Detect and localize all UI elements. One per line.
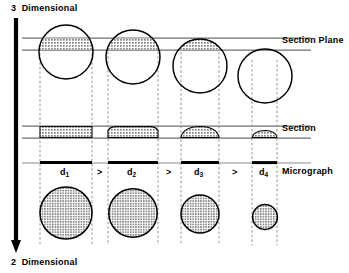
- row-label-section-plane: Section Plane: [282, 36, 344, 45]
- dimensional-axis-arrow: [11, 18, 21, 253]
- axis-top-number: 3: [11, 3, 16, 13]
- section-shape-4: [252, 131, 277, 138]
- diameter-label-3-sub: 3: [200, 171, 204, 178]
- diameter-label-1-sub: 1: [66, 171, 70, 178]
- section-shape-2: [108, 127, 158, 138]
- diameter-label-2-base: d: [127, 167, 133, 177]
- section-shape-1: [40, 127, 92, 138]
- diameter-label-2: d2: [127, 168, 136, 177]
- row-label-micrograph: Micrograph: [282, 167, 333, 176]
- micrograph-disc-1: [40, 187, 92, 239]
- axis-bottom-number: 2: [11, 257, 16, 267]
- diameter-label-1: d1: [60, 168, 69, 177]
- sphere-3: [172, 39, 228, 93]
- axis-label-2-dimensional: 2 Dimensional: [11, 258, 77, 267]
- axis-top-word: Dimensional: [22, 3, 78, 13]
- micrograph-disc-3: [181, 195, 219, 233]
- sphere-group: [38, 25, 293, 103]
- micrograph-disc-2: [109, 189, 157, 237]
- diameter-label-4-base: d: [259, 167, 265, 177]
- diameter-label-3: d3: [194, 168, 203, 177]
- micrograph-discs: [40, 187, 277, 239]
- diameter-label-4: d4: [259, 168, 268, 177]
- micrograph-disc-4: [253, 205, 278, 230]
- section-shapes: [40, 127, 277, 138]
- comparison-operator-1: >: [97, 168, 102, 177]
- comparison-operator-2: >: [166, 168, 171, 177]
- diameter-label-4-sub: 4: [265, 171, 269, 178]
- sphere-1: [38, 25, 94, 79]
- row-label-section: Section: [282, 124, 316, 133]
- diameter-label-2-sub: 2: [133, 171, 137, 178]
- axis-label-3-dimensional: 3 Dimensional: [11, 4, 77, 13]
- axis-bottom-word: Dimensional: [22, 257, 78, 267]
- figure-root: 3 Dimensional 2 Dimensional Section Plan…: [0, 0, 349, 273]
- comparison-operator-3: >: [232, 168, 237, 177]
- diameter-label-3-base: d: [194, 167, 200, 177]
- section-shape-3: [181, 127, 219, 138]
- diameter-label-1-base: d: [60, 167, 66, 177]
- sphere-4: [237, 39, 293, 103]
